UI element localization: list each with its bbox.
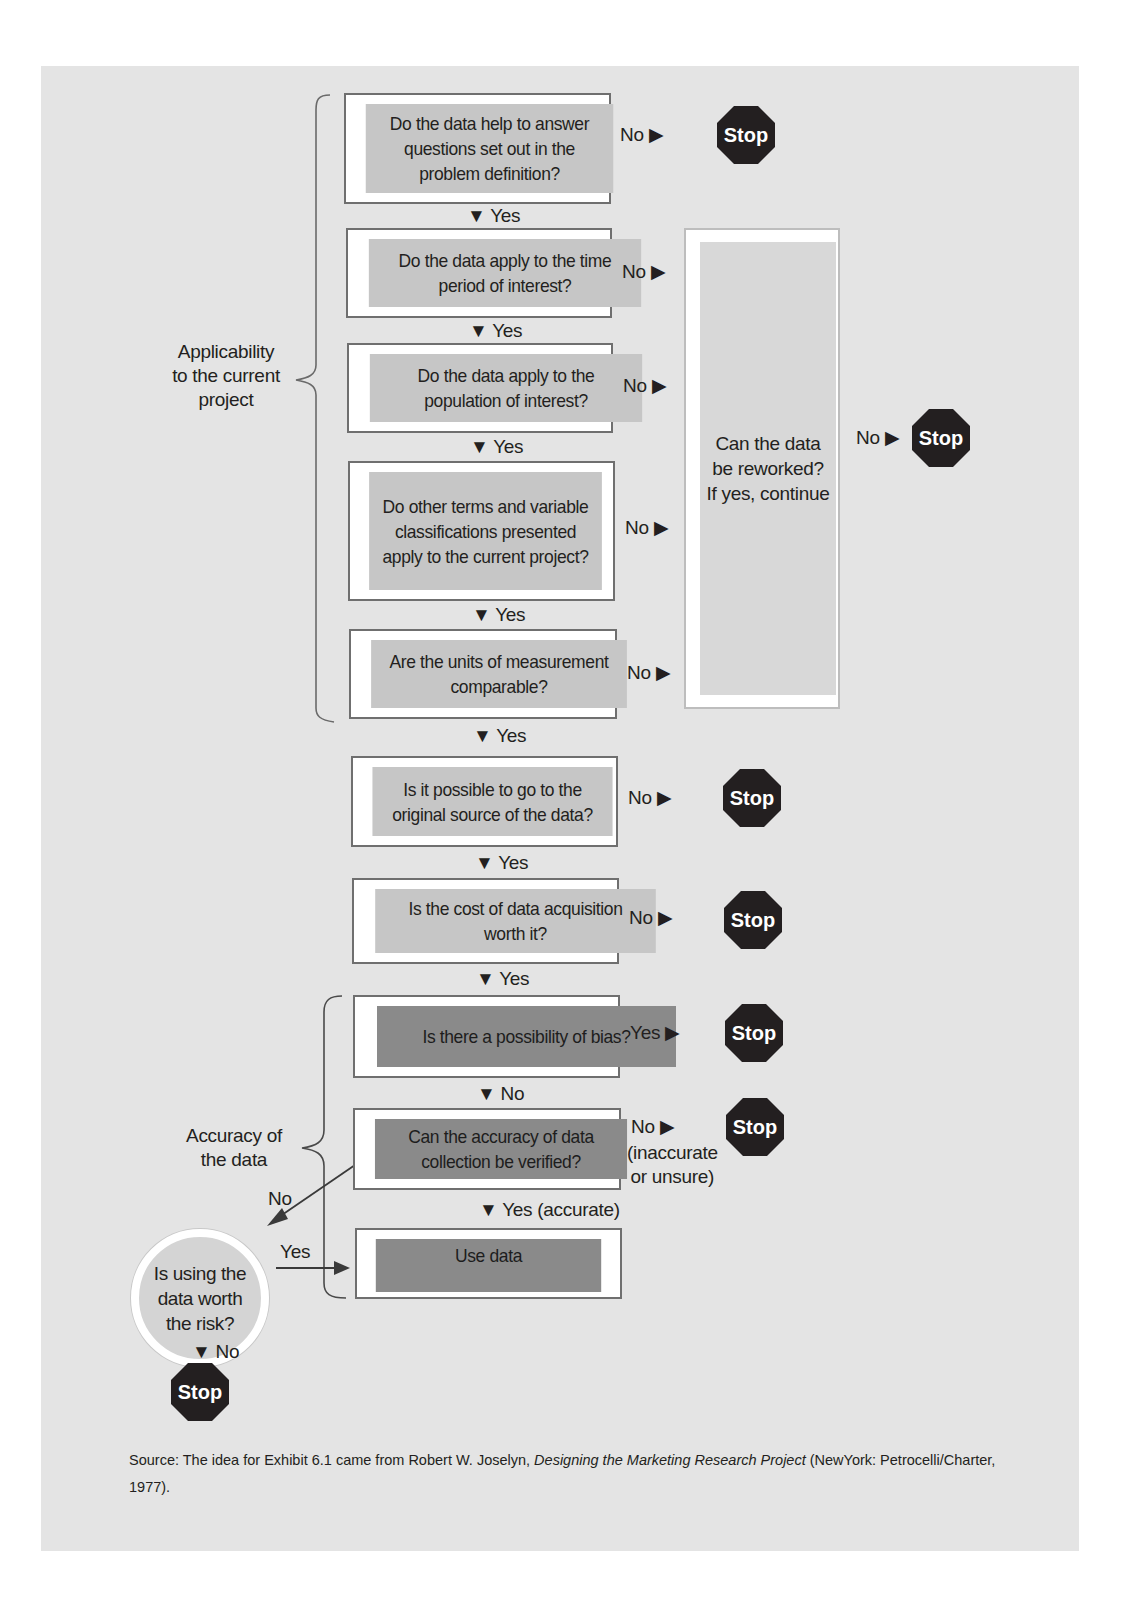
no-note-q9: (inaccurate or unsure) (627, 1141, 718, 1189)
no-label-q2: No ▶ (622, 261, 665, 283)
question-text: Do the data apply to the time period of … (369, 239, 641, 307)
yes-label-q6: ▼ Yes (475, 852, 528, 874)
stop-octagon-icon: Stop (724, 1003, 784, 1063)
no-label-q7: No ▶ (629, 907, 672, 929)
question-box-bias: Is there a possibility of bias? (353, 995, 620, 1078)
question-text: Do the data apply to the population of i… (370, 354, 642, 422)
stop-octagon-icon: Stop (170, 1362, 230, 1422)
yes-label-q8-right: Yes ▶ (630, 1022, 680, 1044)
risk-text: Is using the data worth the risk? (139, 1261, 261, 1336)
stop-octagon-icon: Stop (725, 1097, 785, 1157)
stop-sign-q1: Stop (716, 105, 776, 165)
question-box-answers-questions: Do the data help to answer questions set… (344, 93, 611, 204)
stop-sign-q6: Stop (722, 768, 782, 828)
question-box-time-period: Do the data apply to the time period of … (346, 228, 612, 318)
use-data-box: Use data (355, 1228, 622, 1299)
source-citation: Source: The idea for Exhibit 6.1 came fr… (129, 1447, 1009, 1501)
question-text: Do other terms and variable classificati… (369, 472, 602, 590)
question-box-terms-classifications: Do other terms and variable classificati… (348, 461, 615, 601)
yes-label-q7: ▼ Yes (476, 968, 529, 990)
no-label-q6: No ▶ (628, 787, 671, 809)
group-label-accuracy: Accuracy of the data (178, 1124, 290, 1172)
no-label-risk: ▼ No (192, 1341, 239, 1363)
stop-octagon-icon: Stop (716, 105, 776, 165)
svg-text:Stop: Stop (730, 787, 774, 809)
yes-accurate-label-q9: ▼ Yes (accurate) (479, 1199, 620, 1221)
no-label-q3: No ▶ (623, 375, 666, 397)
stop-octagon-icon: Stop (911, 408, 971, 468)
question-box-population: Do the data apply to the population of i… (347, 343, 613, 433)
no-label-rework: No ▶ (856, 427, 899, 449)
question-text: Can the accuracy of data collection be v… (375, 1119, 627, 1179)
stop-octagon-icon: Stop (723, 890, 783, 950)
source-prefix: Source: The idea for Exhibit 6.1 came fr… (129, 1452, 534, 1468)
svg-text:Stop: Stop (919, 427, 963, 449)
yes-label-q1: ▼ Yes (467, 205, 520, 227)
question-box-cost-acquisition: Is the cost of data acquisition worth it… (352, 878, 619, 964)
svg-text:Stop: Stop (733, 1116, 777, 1138)
question-box-original-source: Is it possible to go to the original sou… (351, 756, 618, 847)
stop-sign-q7: Stop (723, 890, 783, 950)
source-title: Designing the Marketing Research Project (534, 1452, 806, 1468)
no-label-q4: No ▶ (625, 517, 668, 539)
yes-label-risk: Yes (280, 1241, 310, 1263)
no-label-q5: No ▶ (627, 662, 670, 684)
stop-sign-q8: Stop (724, 1003, 784, 1063)
stop-sign-risk: Stop (170, 1362, 230, 1422)
no-label-to-risk: No (268, 1188, 292, 1210)
yes-label-q4: ▼ Yes (472, 604, 525, 626)
rework-text: Can the data be reworked? If yes, contin… (700, 242, 836, 695)
svg-text:Stop: Stop (178, 1381, 222, 1403)
no-label-q8-down: ▼ No (477, 1083, 524, 1105)
svg-text:Stop: Stop (724, 124, 768, 146)
no-label-q9: No ▶ (631, 1116, 674, 1138)
question-text: Do the data help to answer questions set… (366, 104, 613, 193)
stop-sign-rework: Stop (911, 408, 971, 468)
question-box-verify-accuracy: Can the accuracy of data collection be v… (353, 1108, 621, 1190)
rework-box: Can the data be reworked? If yes, contin… (684, 228, 840, 709)
stop-octagon-icon: Stop (722, 768, 782, 828)
yes-label-q3: ▼ Yes (470, 436, 523, 458)
stop-sign-q9: Stop (725, 1097, 785, 1157)
group-label-applicability: Applicability to the current project (164, 340, 288, 412)
no-label-q1: No ▶ (620, 124, 663, 146)
question-box-units-measurement: Are the units of measurement comparable? (349, 629, 617, 719)
yes-label-q5: ▼ Yes (473, 725, 526, 747)
svg-text:Stop: Stop (731, 909, 775, 931)
question-text: Are the units of measurement comparable? (371, 640, 627, 708)
question-text: Is it possible to go to the original sou… (372, 767, 612, 836)
svg-text:Stop: Stop (732, 1022, 776, 1044)
yes-label-q2: ▼ Yes (469, 320, 522, 342)
use-data-text: Use data (376, 1239, 601, 1292)
question-text: Is the cost of data acquisition worth it… (375, 889, 656, 953)
